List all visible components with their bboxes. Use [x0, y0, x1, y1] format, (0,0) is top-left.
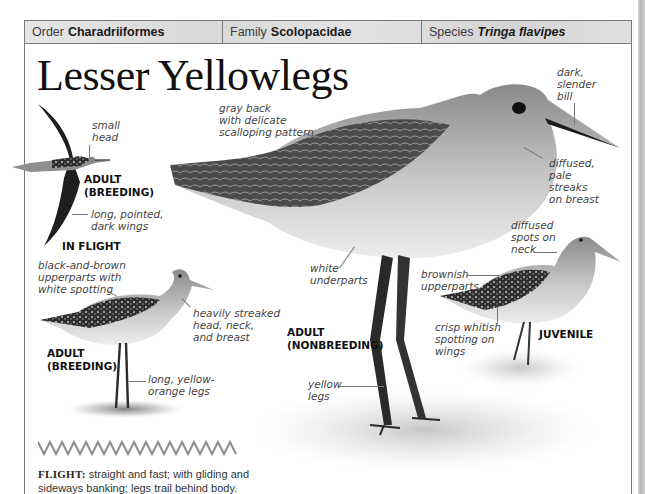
- note-diffused-pale-streaks: diffused, pale streaks on breast: [549, 157, 599, 205]
- leader-line: [89, 145, 90, 159]
- leader-line: [466, 275, 500, 276]
- leader-line: [339, 386, 384, 387]
- note-dark-slender-bill: dark, slender bill: [557, 66, 596, 102]
- flight-description: FLIGHT: straight and fast; with gliding …: [38, 467, 278, 494]
- note-heavily-streaked: heavily streaked head, neck, and breast: [193, 307, 280, 343]
- note-yellow-orange-legs: long, yellow- orange legs: [148, 373, 215, 397]
- note-gray-back: gray back with delicate scalloping patte…: [219, 102, 314, 138]
- stage-label-juvenile: JUVENILE: [539, 328, 593, 341]
- flight-pattern-zigzag-icon: [38, 440, 238, 456]
- note-small-head: small head: [92, 119, 120, 143]
- stage-caption-in-flight: IN FLIGHT: [62, 240, 121, 253]
- note-white-underparts: white underparts: [310, 262, 368, 286]
- stage-label-adult-nonbreeding: ADULT (NONBREEDING): [287, 326, 384, 351]
- note-crisp-whitish-spotting: crisp whitish spotting on wings: [435, 321, 501, 357]
- leader-line: [129, 381, 146, 382]
- leader-line: [535, 252, 557, 253]
- leader-line: [72, 214, 88, 215]
- note-yellow-legs: yellow legs: [308, 378, 342, 402]
- leader-line: [497, 306, 498, 324]
- stage-label-in-flight-adult: ADULT (BREEDING): [84, 173, 154, 198]
- note-diffused-spots-neck: diffused spots on neck: [511, 219, 556, 255]
- leader-line: [574, 103, 575, 125]
- note-black-brown-upperparts: black-and-brown upperparts with white sp…: [38, 259, 126, 295]
- note-brownish-upperparts: brownish upperparts: [421, 268, 479, 292]
- flight-label: FLIGHT:: [38, 468, 86, 480]
- note-flight-wings: long, pointed, dark wings: [91, 208, 164, 232]
- stage-label-adult-breeding: ADULT (BREEDING): [47, 347, 117, 372]
